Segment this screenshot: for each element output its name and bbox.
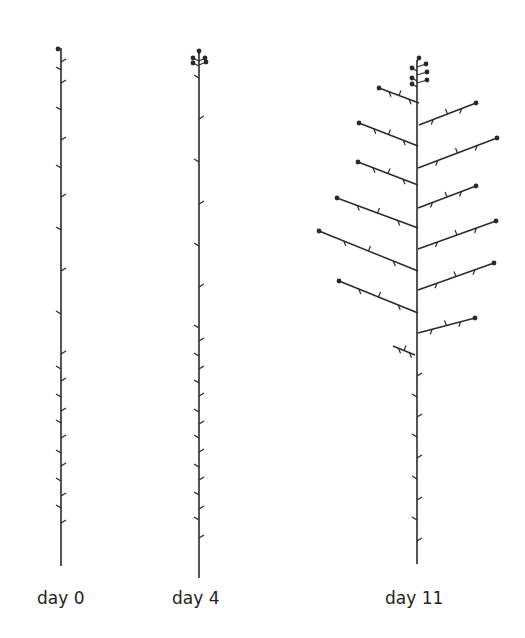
branch-leaf bbox=[404, 346, 406, 351]
flower-bud bbox=[377, 86, 382, 91]
flower-bud bbox=[474, 101, 479, 106]
branch-leaf bbox=[379, 292, 381, 297]
flower-bud bbox=[492, 261, 497, 266]
flower-bud bbox=[474, 184, 479, 189]
terminal-bud bbox=[425, 70, 430, 75]
plant-growth-figure bbox=[0, 0, 525, 638]
branch-leaf bbox=[378, 208, 380, 213]
plant-day-4 bbox=[191, 49, 209, 578]
flower-bud bbox=[335, 196, 340, 201]
branch-leaf bbox=[369, 246, 371, 251]
branch-leaf bbox=[445, 321, 447, 326]
terminal-bud bbox=[410, 82, 415, 87]
terminal-bud bbox=[425, 78, 430, 83]
label-day-0: day 0 bbox=[37, 588, 85, 608]
flower-bud bbox=[356, 160, 361, 165]
branch-leaf bbox=[445, 192, 447, 197]
terminal-bud bbox=[203, 56, 208, 61]
terminal-bud bbox=[424, 62, 429, 67]
terminal-bud bbox=[197, 49, 202, 54]
flower-bud bbox=[494, 219, 499, 224]
branch-leaf bbox=[454, 272, 456, 277]
label-day-4: day 4 bbox=[172, 588, 220, 608]
terminal-bud bbox=[56, 47, 61, 52]
branch-leaf bbox=[388, 169, 390, 174]
plant-day-11 bbox=[317, 56, 500, 564]
plant-day-0 bbox=[56, 47, 66, 566]
flower-bud bbox=[473, 316, 478, 321]
flower-bud bbox=[337, 279, 342, 284]
terminal-bud bbox=[410, 66, 415, 71]
terminal-bud bbox=[410, 76, 415, 81]
label-day-11: day 11 bbox=[385, 588, 443, 608]
terminal-bud bbox=[191, 61, 196, 66]
branch-leaf bbox=[399, 91, 401, 96]
branch-leaf bbox=[446, 109, 448, 114]
branch-leaf bbox=[389, 130, 391, 135]
flower-bud bbox=[317, 229, 322, 234]
flower-bud bbox=[357, 121, 362, 126]
branch-leaf bbox=[456, 148, 458, 153]
flower-bud bbox=[495, 136, 500, 141]
terminal-bud bbox=[417, 56, 422, 61]
terminal-bud bbox=[191, 56, 196, 61]
terminal-bud bbox=[204, 60, 209, 65]
branch-leaf bbox=[455, 230, 457, 235]
